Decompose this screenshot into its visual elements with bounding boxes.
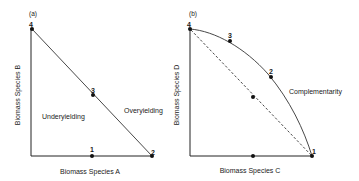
panel-b-midpoint-axis bbox=[251, 154, 255, 158]
panel-a-y-axis-label: Biomass Species B bbox=[14, 65, 22, 126]
panel-b-complementarity-label: Complementarity bbox=[289, 88, 342, 96]
panel-b-point-3-label: 3 bbox=[228, 32, 232, 39]
diagram-canvas: (a) 4 3 2 1 Underyielding Overyielding B… bbox=[0, 0, 359, 181]
panel-b-midpoint-diagonal bbox=[251, 95, 255, 99]
panel-b-point-4-label: 4 bbox=[187, 21, 191, 28]
panel-a-underyielding-label: Underyielding bbox=[42, 113, 85, 121]
panel-a-overyielding-label: Overyielding bbox=[124, 107, 163, 115]
panel-a-point-1-label: 1 bbox=[90, 146, 94, 153]
panel-b-point-3 bbox=[228, 39, 232, 43]
panel-b-x-axis-label: Biomass Species C bbox=[220, 167, 281, 175]
panel-b: (b) 4 3 2 1 Complementarity Biomass Spec… bbox=[173, 10, 342, 175]
panel-a-point-3-label: 3 bbox=[91, 87, 95, 94]
panel-a-x-axis-label: Biomass Species A bbox=[60, 168, 120, 176]
panel-b-point-1-label: 1 bbox=[312, 148, 316, 155]
panel-b-point-2 bbox=[269, 75, 273, 79]
panel-a-point-1 bbox=[90, 154, 94, 158]
panel-a-label: (a) bbox=[29, 10, 37, 18]
panel-a-point-2-label: 2 bbox=[151, 149, 155, 156]
panel-a-point-4-label: 4 bbox=[29, 21, 33, 28]
panel-b-y-axis-label: Biomass Species D bbox=[173, 65, 181, 126]
panel-b-label: (b) bbox=[189, 10, 197, 18]
panel-a: (a) 4 3 2 1 Underyielding Overyielding B… bbox=[14, 10, 163, 176]
panel-b-point-2-label: 2 bbox=[269, 68, 273, 75]
